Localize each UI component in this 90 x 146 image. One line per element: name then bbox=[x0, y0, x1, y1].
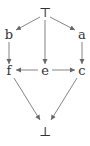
edge-top-a bbox=[50, 17, 75, 30]
node-a: a bbox=[78, 27, 86, 42]
edge-c-bottom bbox=[51, 78, 77, 120]
edge-top-b bbox=[16, 17, 40, 30]
edge-f-bottom bbox=[14, 78, 40, 120]
nodes: ⊤ b a f e c ⊥ bbox=[5, 5, 86, 139]
lattice-diagram: ⊤ b a f e c ⊥ bbox=[0, 0, 90, 146]
node-f: f bbox=[7, 63, 13, 78]
node-c: c bbox=[78, 63, 85, 78]
node-bottom: ⊥ bbox=[39, 124, 51, 139]
node-top: ⊤ bbox=[39, 5, 51, 20]
node-e: e bbox=[41, 63, 49, 78]
node-b: b bbox=[5, 27, 13, 42]
